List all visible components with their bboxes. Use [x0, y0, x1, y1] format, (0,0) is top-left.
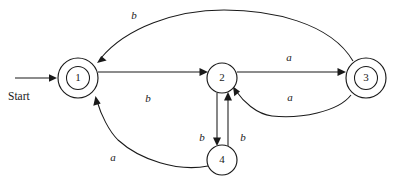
state-node-4[interactable]: 4 — [207, 145, 237, 175]
edge-label-4-to-1: a — [110, 151, 116, 163]
state-3-label: 3 — [363, 71, 369, 83]
edge-label-1-to-2: b — [145, 92, 151, 104]
arrowhead-1-to-2 — [200, 68, 209, 76]
transition-2-to-3 — [237, 68, 346, 76]
fsm-diagram-canvas: Start b a b a b — [0, 0, 407, 185]
state-node-3[interactable]: 3 — [346, 58, 386, 98]
fsm-svg: Start b a b a b — [0, 0, 407, 185]
state-node-2[interactable]: 2 — [207, 63, 237, 93]
edge-label-3-to-1: b — [131, 9, 137, 21]
state-node-1[interactable]: 1 — [58, 58, 98, 98]
state-1-label: 1 — [75, 71, 81, 83]
start-label: Start — [8, 90, 31, 102]
start-arrowhead — [49, 74, 57, 82]
edge-label-4-to-2: b — [240, 131, 246, 143]
transition-1-to-2 — [98, 68, 208, 76]
transition-2-to-4 — [213, 93, 221, 146]
edge-label-3-to-2: a — [287, 91, 293, 103]
edge-label-2-to-3: a — [286, 51, 292, 63]
start-arrow — [15, 74, 57, 82]
arrowhead-4-to-2 — [224, 92, 232, 101]
state-4-label: 4 — [219, 153, 225, 165]
arrowhead-3-to-1 — [97, 56, 107, 63]
transition-4-to-2 — [224, 92, 232, 146]
arrowhead-4-to-1 — [93, 96, 100, 106]
edge-label-2-to-4: b — [199, 131, 205, 143]
arrowhead-2-to-3 — [338, 68, 347, 76]
state-2-label: 2 — [219, 71, 225, 83]
